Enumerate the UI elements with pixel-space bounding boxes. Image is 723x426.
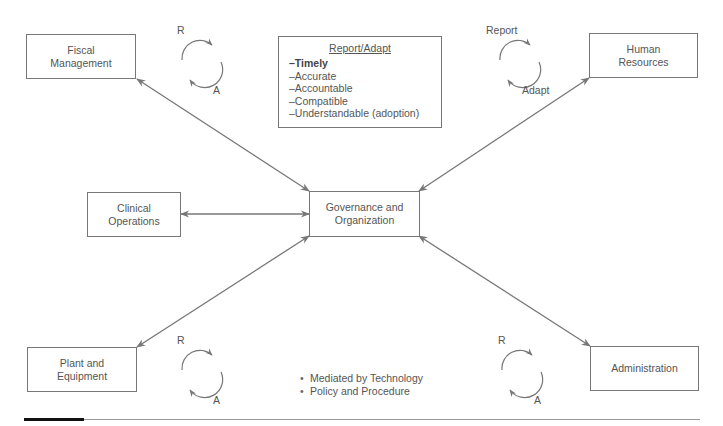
report-adapt-box: Report/Adapt –Timely –Accurate –Accounta… [278,36,442,128]
cycle-label-bottom: A [534,394,541,406]
arrow-plant-governance [137,236,309,347]
cycle-icon [182,350,223,397]
node-label: Plant and [57,357,107,370]
cycle-label-top: R [177,24,185,36]
node-clinical-operations: ClinicalOperations [87,192,181,237]
report-adapt-list: –Timely –Accurate –Accountable –Compatib… [289,57,441,120]
arrow-admin-governance [419,236,590,346]
node-label: Equipment [57,370,107,383]
list-item: Mediated by Technology [300,372,423,385]
list-item: Policy and Procedure [300,385,423,398]
report-adapt-title: Report/Adapt [279,42,441,54]
list-item: –Understandable (adoption) [289,107,441,120]
list-item: –Timely [289,57,441,70]
node-human-resources: HumanResources [589,33,698,78]
node-label: Governance and [326,201,404,214]
node-governance-organization: Governance andOrganization [309,191,420,237]
cycle-label-top: R [498,334,506,346]
cycle-icon [500,40,541,87]
list-item: –Accountable [289,82,441,95]
node-label: Administration [611,362,678,375]
node-label: Operations [108,215,159,228]
arrow-hr-governance [419,78,589,191]
node-label: Management [50,57,111,70]
cycle-label-top: Report [486,24,518,36]
node-fiscal-management: FiscalManagement [26,34,136,79]
cycle-label-bottom: A [213,394,220,406]
cycle-icon [502,350,543,397]
notes-list: Mediated by Technology Policy and Proced… [300,372,423,398]
list-item: –Compatible [289,95,441,108]
cycle-icon [182,40,223,87]
node-label: Fiscal [50,44,111,57]
node-label: Organization [326,214,404,227]
node-label: Resources [618,56,668,69]
node-label: Clinical [108,202,159,215]
node-administration: Administration [590,346,699,391]
node-plant-equipment: Plant andEquipment [27,347,137,392]
cycle-label-bottom: A [213,84,220,96]
node-label: Human [618,43,668,56]
cycle-label-top: R [177,334,185,346]
list-item: –Accurate [289,70,441,83]
cycle-label-bottom: Adapt [522,84,549,96]
